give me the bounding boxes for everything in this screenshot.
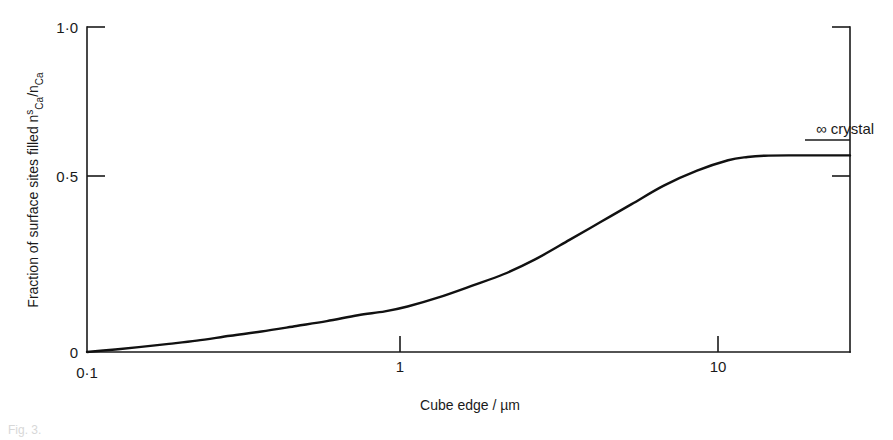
- x-tick-label-0point1: 0·1: [76, 364, 98, 381]
- infinite-crystal-label: ∞ crystal: [816, 120, 874, 137]
- y-axis-tick-labels: 1·0 0·5 0: [56, 19, 78, 361]
- x-axis-ticks: [400, 336, 718, 352]
- chart-canvas: 1·0 0·5 0 ∞ crystal 0·1 1 10 Cube edge /…: [0, 0, 893, 440]
- x-axis-tick-labels: 0·1 1 10: [76, 358, 726, 381]
- y-axis-title-denominator-sub: Ca: [34, 72, 45, 85]
- y-tick-label-0: 0: [70, 344, 78, 361]
- infinite-crystal-annotation: ∞ crystal: [816, 120, 874, 137]
- figure-container: 1·0 0·5 0 ∞ crystal 0·1 1 10 Cube edge /…: [0, 0, 893, 440]
- data-curve-fraction-filled: [87, 155, 850, 352]
- y-axis-title-prefix: Fraction of surface sites filled: [25, 122, 41, 307]
- right-axis-ticks: [805, 140, 850, 176]
- x-axis-title: Cube edge / µm: [420, 397, 520, 413]
- y-axis-title-numerator-sub: Ca: [34, 96, 45, 109]
- y-axis-title-numerator-base: n: [25, 115, 41, 123]
- x-tick-label-1: 1: [396, 358, 404, 375]
- x-tick-label-10: 10: [710, 358, 727, 375]
- y-tick-label-1: 1·0: [56, 19, 78, 36]
- y-axis-title-denominator-base: n: [25, 85, 41, 93]
- caption-fragment: Fig. 3.: [8, 423, 41, 437]
- y-axis-title: Fraction of surface sites filled nsCa/nC…: [24, 72, 45, 308]
- y-tick-label-0point5: 0·5: [56, 168, 78, 185]
- svg-text:Fraction of surface sites fill: Fraction of surface sites filled nsCa/nC…: [24, 72, 45, 308]
- axis-frame: [87, 27, 850, 352]
